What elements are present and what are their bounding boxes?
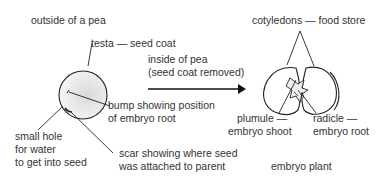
cotyledons-label: cotyledons — food store: [252, 14, 365, 27]
arrow-label-line2: (seed coat removed): [148, 66, 244, 79]
arrow-icon: [148, 84, 246, 94]
testa-label: testa — seed coat: [91, 37, 176, 50]
embryo-plant-caption: embryo plant: [271, 160, 332, 173]
hole-label-line2: for water: [15, 143, 56, 156]
bump-label-line2: of embryo root: [108, 112, 176, 125]
outside-of-pea-title: outside of a pea: [31, 14, 106, 27]
plumule-label-line2: embryo shoot: [228, 125, 292, 138]
split-pea-icon: [264, 67, 339, 114]
radicle-label-line1: radicle —: [313, 112, 357, 125]
hole-label-line3: to get into seed: [15, 156, 87, 169]
scar-label-line2: was attached to parent: [119, 160, 225, 173]
plumule-label-line1: plumule —: [237, 112, 287, 125]
radicle-label-line2: embryo root: [313, 125, 369, 138]
hole-label-line1: small hole: [15, 130, 62, 143]
whole-pea-icon: [59, 71, 107, 119]
arrow-label-line1: inside of pea: [148, 53, 208, 66]
scar-label-line1: scar showing where seed: [119, 147, 237, 160]
bump-label-line1: bump showing position: [108, 99, 215, 112]
